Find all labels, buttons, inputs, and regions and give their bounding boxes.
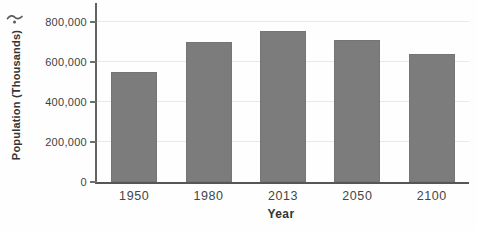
- y-axis-tick: [90, 61, 97, 63]
- y-axis-tick: [90, 101, 97, 103]
- bar-2013: [260, 31, 306, 182]
- y-axis-tick: [90, 21, 97, 23]
- y-axis-tick: [90, 181, 97, 183]
- x-tick-label: 1980: [171, 189, 245, 203]
- bar-2100: [409, 54, 455, 182]
- plot-area: 0200,000400,000600,000800,00019501980201…: [95, 3, 469, 184]
- y-tick-label: 800,000: [45, 16, 87, 28]
- x-tick-label: 2013: [246, 189, 320, 203]
- x-tick-label: 2100: [395, 189, 469, 203]
- x-axis-title: Year: [95, 207, 467, 221]
- y-tick-label: 600,000: [45, 56, 87, 68]
- bar-1980: [186, 42, 232, 182]
- x-tick-label: 1950: [97, 189, 171, 203]
- y-tick-label: 400,000: [45, 96, 87, 108]
- gridline: [97, 21, 469, 22]
- bar-1950: [111, 72, 157, 182]
- bar-2050: [334, 40, 380, 182]
- x-tick-label: 2050: [320, 189, 394, 203]
- y-tick-label: 200,000: [45, 136, 87, 148]
- y-axis-title: Population (Thousands): [10, 30, 22, 160]
- y-tick-label: 0: [81, 176, 87, 188]
- scan-mark-icon: [6, 12, 24, 26]
- population-bar-chart-figure: Population (Thousands) 0200,000400,00060…: [0, 0, 478, 231]
- y-axis-tick: [90, 141, 97, 143]
